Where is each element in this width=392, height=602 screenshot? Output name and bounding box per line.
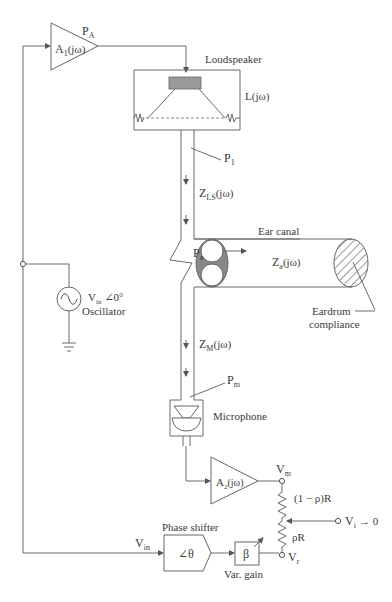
eardrum-icon xyxy=(334,239,368,287)
amplifier-a2: A2(jω) xyxy=(211,457,258,504)
p1-pointer xyxy=(191,148,221,160)
p1-label: P1 xyxy=(224,151,235,167)
resistor-top-label: (1 − ρ)R xyxy=(294,492,332,505)
oscillator: Vin∠0° Oscillator xyxy=(25,264,126,351)
spring-right-icon xyxy=(226,114,240,122)
za-label: Za(jω) xyxy=(272,255,301,271)
vr-terminal-icon[interactable] xyxy=(279,552,284,557)
microphone: Microphone xyxy=(170,400,267,446)
phase-shifter[interactable]: Phase shifter ∠θ xyxy=(162,521,219,571)
pa-junction: Pa xyxy=(170,239,246,400)
speaker-tube: ZLS(jω) xyxy=(170,130,300,260)
vm-terminal-icon[interactable] xyxy=(279,478,284,483)
gain-symbol: β xyxy=(243,547,249,561)
oscillator-title: Oscillator xyxy=(82,305,126,317)
eardrum-label-line2: compliance xyxy=(309,318,360,330)
junction-node-icon xyxy=(20,261,25,266)
vi-label: Vi→ 0 xyxy=(345,514,379,530)
eardrum-label-line1: Eardrum xyxy=(312,305,351,317)
left-signal-wire xyxy=(20,46,50,553)
loudspeaker-title: Loudspeaker xyxy=(205,53,262,65)
loudspeaker: Loudspeaker L(jω) xyxy=(134,53,270,130)
vin-label: Vin xyxy=(135,536,150,552)
pm-label: Pm xyxy=(227,373,241,389)
variable-gain[interactable]: β Var. gain xyxy=(224,538,264,580)
amplifier-a1: A1(jω) PA xyxy=(51,23,98,70)
phase-shifter-symbol: ∠θ xyxy=(178,547,194,561)
potentiometer: (1 − ρ)R ρR Vi→ 0 xyxy=(278,484,379,553)
a1-to-speaker-wire xyxy=(98,46,186,72)
zls-label: ZLS(jω) xyxy=(199,186,234,202)
schematic-diagram: A1(jω) PA Loudspeaker L(jω) P1 ZLS(jω) E… xyxy=(0,0,392,602)
microphone-title: Microphone xyxy=(213,410,267,422)
loudspeaker-transfer-label: L(jω) xyxy=(245,90,270,103)
vr-label: Vr xyxy=(288,550,300,566)
zm-label: ZM(jω) xyxy=(199,337,231,353)
pm-pointer xyxy=(190,383,225,397)
speaker-magnet-icon xyxy=(169,77,201,89)
pa-output-label: PA xyxy=(82,24,95,40)
var-gain-title: Var. gain xyxy=(224,568,264,580)
vi-terminal-icon[interactable] xyxy=(335,518,340,523)
resistor-bottom-label: ρR xyxy=(292,531,305,543)
ear-canal-title: Ear canal xyxy=(258,225,299,237)
mic-to-a2-wire xyxy=(186,446,210,481)
phase-shifter-title: Phase shifter xyxy=(162,521,219,533)
vin-angle-label: Vin∠0° xyxy=(88,291,124,306)
microphone-capsule-icon xyxy=(172,418,201,431)
vm-label: Vm xyxy=(276,462,292,478)
